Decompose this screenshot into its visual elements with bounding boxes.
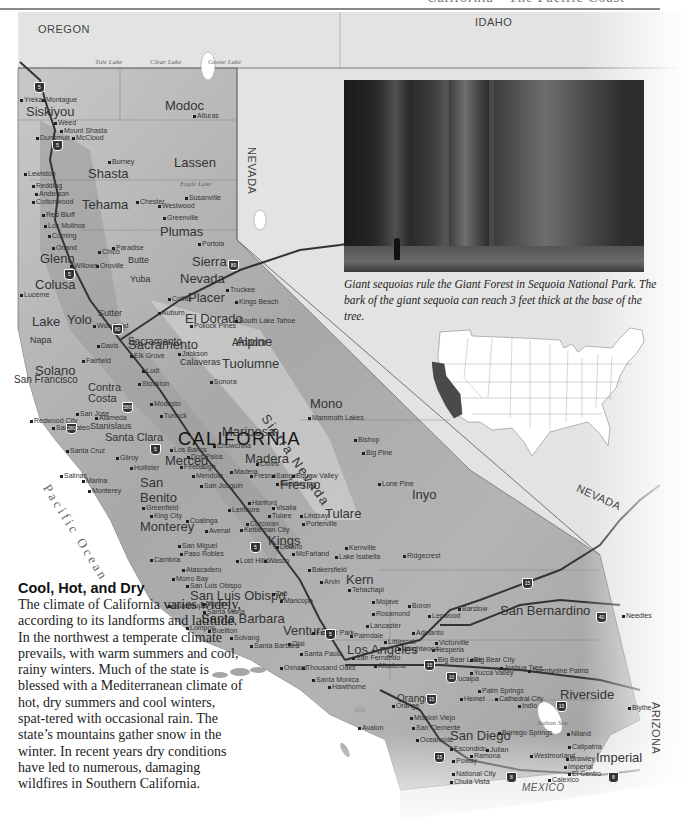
city-twentynine-palms: Twentynine Palms <box>528 667 589 674</box>
city-san-joaquin: San Joaquin <box>200 482 243 489</box>
city-tulare: Tulare <box>268 512 292 519</box>
county-shasta: Shasta <box>88 167 128 180</box>
city-lancaster: Lancaster <box>366 622 401 629</box>
county-tehama: Tehama <box>82 198 128 211</box>
city-firebaugh: Firebaugh <box>180 463 216 470</box>
city-westwood: Westwood <box>158 202 195 209</box>
city-colfax: Colfax <box>168 295 192 302</box>
city-los-banos: Los Banos <box>170 446 207 453</box>
city-hawthorne: Hawthorne <box>328 683 366 690</box>
city-littlerock: Littlerock <box>384 638 416 645</box>
city-ojai: Ojai <box>288 640 304 647</box>
giant-sequoia-photo <box>344 80 644 272</box>
label-tule-lake: Tule Lake <box>95 59 122 66</box>
city-monterey: Monterey <box>88 487 121 494</box>
city-mendota: Mendota <box>192 472 223 479</box>
city-stockton: Stockton <box>138 380 169 387</box>
label-nevada-north: NEVADA <box>246 147 257 194</box>
climate-sidebar: Cool, Hot, and Dry The climate of Califo… <box>18 580 243 793</box>
county-riverside: Riverside <box>560 688 614 701</box>
interstate-5-shield-merced: 5 <box>150 444 161 455</box>
interstate-580-shield: 580 <box>122 402 133 413</box>
city-alturas: Alturas <box>193 112 219 119</box>
city-mcfarland: McFarland <box>292 550 329 557</box>
city-south-lake-tahoe: South Lake Tahoe <box>235 317 295 324</box>
city-los-molinos: Los Molinos <box>44 222 85 229</box>
city-lemoore: Lemoore <box>228 506 260 513</box>
county-san-francisco: San Francisco <box>14 375 78 385</box>
interstate-15-shield: 15 <box>522 578 533 589</box>
city-thousand-oaks: Thousand Oaks <box>302 664 355 671</box>
county-kern: Kern <box>346 573 373 586</box>
city-montague: Montague <box>42 96 77 103</box>
city-lake-isabella: Lake Isabella <box>335 553 380 560</box>
city-oroville: Oroville <box>96 262 124 269</box>
city-boron: Boron <box>408 602 431 609</box>
county-lassen: Lassen <box>174 156 216 169</box>
city-susanville: Susanville <box>185 194 221 201</box>
city-king-city: King City <box>150 512 182 519</box>
county-siskiyou: Siskiyou <box>26 105 74 118</box>
city-willows: Willows <box>70 262 98 269</box>
county-placer: Placer <box>188 291 225 304</box>
city-adelanto: Adelanto <box>412 629 444 636</box>
city-redding: Redding <box>32 182 62 189</box>
county-tulare: Tulare <box>325 507 361 520</box>
city-woodland: Woodland <box>93 322 128 329</box>
county-napa: Napa <box>30 336 52 345</box>
city-avenal: Avenal <box>205 527 230 534</box>
city-san-miguel: San Miguel <box>178 542 217 549</box>
us-map-graphic <box>432 318 660 458</box>
us-locator-inset <box>432 318 660 458</box>
header-rule <box>0 8 660 10</box>
sidebar-body: The climate of California varies widely,… <box>18 597 243 793</box>
city-big-bear-city: Big Bear City <box>470 656 515 663</box>
photo-caption: Giant sequoias rule the Giant Forest in … <box>344 276 664 324</box>
city-big-pine: Big Pine <box>362 449 392 456</box>
city-mammoth-lakes: Mammoth Lakes <box>308 414 364 421</box>
city-tehachapi: Tehachapi <box>348 586 384 593</box>
city-calipatria: Calipatria <box>568 743 602 750</box>
interstate-8-shield: 8 <box>506 772 517 783</box>
city-brawley: Brawley <box>566 755 595 762</box>
county-sierra: Sierra <box>192 255 227 268</box>
city-orland: Orland <box>52 244 77 251</box>
city-modesto: Modesto <box>150 400 181 407</box>
city-greenville: Greenville <box>163 214 199 221</box>
county-tuolumne: Tuolumne <box>222 357 279 370</box>
city-ridgecrest: Ridgecrest <box>403 552 440 559</box>
county-lake: Lake <box>32 315 60 328</box>
interstate-5-shield-colusa: 5 <box>64 269 75 280</box>
city-yreka: Yreka <box>20 96 42 103</box>
interstate-215-shield: 15 <box>424 660 435 671</box>
city-corning: Corning <box>48 232 77 239</box>
city-dos-palos: Dos Palos <box>187 453 223 460</box>
county-yuba: Yuba <box>130 275 151 284</box>
interstate-15-shield-south: 15 <box>426 694 437 705</box>
label-mexico: MEXICO <box>522 783 564 793</box>
photo-trunk-left <box>449 80 489 272</box>
city-lucerne: Lucerne <box>20 291 49 298</box>
county-modoc: Modoc <box>165 99 204 112</box>
city-weed: Weed <box>54 119 76 126</box>
county-inyo: Inyo <box>412 488 437 501</box>
city-auburn: Auburn <box>158 309 185 316</box>
city-national-city: National City <box>452 770 496 777</box>
county-san-benito: San Benito <box>140 475 180 505</box>
city-mccloud: McCloud <box>72 134 104 141</box>
city-palmdale: Palmdale <box>350 632 383 639</box>
city-atascadero: Atascadero <box>182 566 221 573</box>
city-davis: Davis <box>97 342 119 349</box>
city-julian: Julian <box>486 746 508 753</box>
city-kings-beach: Kings Beach <box>235 298 278 305</box>
city-cottonwood: Cottonwood <box>32 198 73 205</box>
sidebar-heading: Cool, Hot, and Dry <box>18 580 243 596</box>
city-paso-robles: Paso Robles <box>180 550 224 557</box>
label-goose-lake: Goose Lake <box>208 59 241 66</box>
interstate-5-shield-north: 5 <box>34 82 45 93</box>
page-header-title: California • The Pacific Coast <box>427 0 625 6</box>
city-barstow: Barstow <box>458 605 487 612</box>
interstate-5-shield-kings: 5 <box>250 542 261 553</box>
city-reedley: Reedley <box>276 480 306 487</box>
city-portola: Portola <box>198 240 224 247</box>
